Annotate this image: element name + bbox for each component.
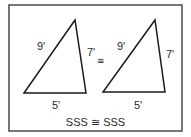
- triangle-left-side-5: 5': [52, 99, 60, 111]
- triangle-right-side-5: 5': [134, 99, 142, 111]
- sss-congruence-diagram: 9' 7' 5' ≅ 9' 7' 5' SSS ≅ SSS: [0, 0, 191, 137]
- congruence-symbol: ≅: [97, 56, 105, 66]
- triangle-right-side-9: 9': [117, 40, 125, 52]
- caption: SSS ≅ SSS: [66, 116, 125, 128]
- triangle-right-side-7: 7': [166, 48, 174, 60]
- triangle-left-side-9: 9': [37, 40, 45, 52]
- triangle-left-side-7: 7': [87, 46, 95, 58]
